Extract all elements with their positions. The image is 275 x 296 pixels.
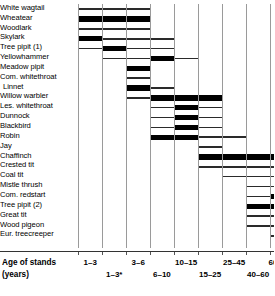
presence-bar	[151, 87, 174, 89]
axis-tick-label: 25–45	[223, 258, 245, 267]
species-label-column: White wagtailWheatearWoodlarkSkylarkTree…	[0, 0, 76, 252]
species-label: Com. whitethroat	[0, 72, 76, 81]
species-label: Chaffinch	[0, 151, 76, 160]
presence-bar	[175, 58, 198, 60]
peak-bar	[127, 16, 150, 21]
presence-bar	[247, 225, 270, 227]
presence-bar	[271, 215, 275, 217]
species-label: Les. whitethroat	[0, 101, 76, 110]
axis-tick	[198, 252, 199, 255]
presence-bar	[223, 176, 246, 178]
presence-bar	[199, 166, 222, 168]
presence-bar	[199, 146, 222, 148]
presence-bar	[151, 48, 174, 50]
presence-bar	[247, 166, 270, 168]
peak-bar	[247, 204, 270, 209]
presence-bar	[151, 127, 174, 129]
peak-bar	[79, 16, 102, 21]
presence-bar	[103, 8, 126, 10]
peak-bar	[247, 154, 270, 159]
axis-tick-label: 6–10	[153, 270, 171, 279]
presence-bar	[151, 38, 174, 40]
species-label: Meadow pipit	[0, 62, 76, 71]
gridline	[246, 4, 247, 248]
presence-bar	[271, 186, 275, 188]
presence-bar	[199, 136, 222, 138]
peak-bar	[175, 105, 198, 110]
presence-bar	[79, 8, 102, 10]
gridline	[102, 4, 103, 248]
presence-bar	[127, 38, 150, 40]
species-label: Crested tit	[0, 160, 76, 169]
peak-bar	[223, 154, 246, 159]
species-label: Woodlark	[0, 23, 76, 32]
species-label: Coal tit	[0, 170, 76, 179]
presence-bar	[103, 58, 126, 60]
axis-tick	[126, 252, 127, 255]
presence-bar	[199, 107, 222, 109]
axis-tick	[222, 252, 223, 255]
presence-bar	[79, 28, 102, 30]
presence-bar	[223, 166, 246, 168]
species-label: Com. redstart	[0, 190, 76, 199]
axis-caption: Age of stands (years) 1–33–610–1525–4560…	[0, 256, 274, 296]
presence-bar	[271, 225, 275, 227]
axis-tick	[78, 252, 79, 255]
axis-tick	[150, 252, 151, 255]
species-label: Wheatear	[0, 13, 76, 22]
species-label: Great tit	[0, 210, 76, 219]
presence-bar	[127, 58, 150, 60]
gridline	[126, 4, 127, 248]
peak-bar	[151, 95, 174, 100]
presence-bar	[223, 136, 246, 138]
axis-tick-label: 15–25	[199, 270, 221, 279]
presence-bar	[151, 107, 174, 109]
peak-bar	[199, 154, 222, 159]
axis-title-line2: (years)	[2, 270, 29, 279]
peak-bar	[103, 16, 126, 21]
species-label: Mistle thrush	[0, 180, 76, 189]
presence-bar	[271, 166, 275, 168]
peak-bar	[127, 66, 150, 71]
species-label: Tree pipit (2)	[0, 200, 76, 209]
peak-bar	[271, 194, 275, 199]
plot-area	[76, 0, 274, 252]
presence-bar	[103, 38, 126, 40]
presence-bar	[127, 48, 150, 50]
axis-baseline	[0, 251, 274, 252]
presence-bar	[199, 127, 222, 129]
presence-bar	[151, 117, 174, 119]
peak-bar	[175, 115, 198, 120]
peak-bar	[175, 125, 198, 130]
species-label: Eur. treecreeper	[0, 229, 76, 238]
axis-tick-label: 1–3*	[106, 270, 122, 279]
peak-bar	[151, 56, 174, 61]
axis-tick-label: 10–15	[175, 258, 197, 267]
succession-chart: White wagtailWheatearWoodlarkSkylarkTree…	[0, 0, 274, 296]
presence-bar	[247, 176, 270, 178]
species-label: Linnet	[0, 82, 79, 91]
presence-bar	[247, 196, 270, 198]
axis-tick-label: 1–3	[84, 258, 97, 267]
peak-bar	[103, 46, 126, 51]
peak-bar	[175, 95, 198, 100]
presence-bar	[247, 215, 270, 217]
peak-bar	[151, 135, 174, 140]
presence-bar	[127, 77, 150, 79]
peak-bar	[271, 204, 275, 209]
axis-tick	[174, 252, 175, 255]
presence-bar	[271, 176, 275, 178]
axis-tick-label: 3–6	[132, 258, 145, 267]
presence-bar	[247, 186, 270, 188]
species-label: Robin	[0, 131, 76, 140]
axis-title-line1: Age of stands	[2, 258, 56, 267]
species-label: Jay	[0, 141, 76, 150]
species-label: White wagtail	[0, 3, 76, 12]
peak-bar	[79, 36, 102, 41]
presence-bar	[199, 117, 222, 119]
peak-bar	[175, 135, 198, 140]
species-label: Skylark	[0, 32, 76, 41]
species-label: Willow warbler	[0, 91, 76, 100]
presence-bar	[271, 235, 275, 237]
presence-bar	[79, 48, 102, 50]
